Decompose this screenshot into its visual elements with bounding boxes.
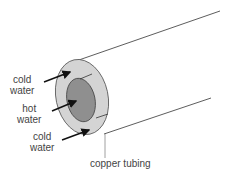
label-text: water <box>17 114 41 125</box>
label-cold-water-top: cold water <box>10 74 34 96</box>
diagram-canvas: cold water hot water cold water copper t… <box>0 0 231 183</box>
label-text: cold <box>30 131 54 142</box>
outer-pipe-top-edge <box>76 11 220 61</box>
pipe-illustration <box>0 0 231 183</box>
label-text: water <box>10 85 34 96</box>
label-hot-water: hot water <box>17 103 41 125</box>
label-copper-tubing: copper tubing <box>90 158 151 169</box>
label-text: hot <box>17 103 41 114</box>
label-text: water <box>30 142 54 153</box>
outer-pipe-bottom-edge <box>104 98 211 134</box>
label-cold-water-bottom: cold water <box>30 131 54 153</box>
label-text: cold <box>10 74 34 85</box>
